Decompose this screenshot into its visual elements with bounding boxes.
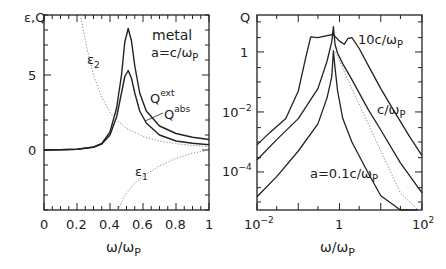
right-xtick-1e2: 102 [412,215,434,232]
curve-a=0.1c/ωP [257,51,418,210]
right-x-axis-label: ω/ωP [320,239,355,259]
left-x-axis-label: ω/ωP [106,239,141,259]
eps2-label: ε2 [87,52,100,70]
radius-label: a=c/ωP [151,45,198,63]
label-10c: 10c/ωP [358,32,403,50]
left-ytick-5: 5 [28,68,36,83]
curve-ε1 [118,150,209,210]
left-xtick-0.6: 0.6 [132,217,153,232]
label-0.1c: a=0.1c/ωP [310,166,378,184]
qabs-label: Qabs [164,104,190,122]
right-ytick-1e-4: 10−4 [222,162,252,179]
qext-label: Qext [150,88,175,106]
left-xtick-0.2: 0.2 [66,217,87,232]
right-curves [257,27,422,210]
left-xtick-0.8: 0.8 [165,217,186,232]
right-xtick-1e-2: 10−2 [244,215,274,232]
left-panel: ε,Q 5 0 0 0.2 0.4 0.6 0.8 1 ω/ωP metal a… [24,10,213,259]
figure: ε,Q 5 0 0 0.2 0.4 0.6 0.8 1 ω/ωP metal a… [0,0,446,269]
right-ytick-1: 1 [240,45,248,60]
metal-label: metal [152,27,192,43]
eps1-label: ε1 [135,164,148,182]
right-ytick-1e-2: 10−2 [222,103,252,120]
left-xtick-0.4: 0.4 [99,217,120,232]
right-y-axis-label: Q [240,10,250,25]
left-xtick-0: 0 [40,217,48,232]
right-xtick-1: 1 [335,217,343,232]
left-ytick-0: 0 [28,143,36,158]
right-panel: Q 1 10−2 10−4 10−2 1 102 ω/ωP 10c/ωP c/ω… [222,10,434,259]
curve-10c/ωP [257,35,422,156]
label-c: c/ωP [377,102,405,120]
left-xtick-1: 1 [205,217,213,232]
left-y-axis-label: ε,Q [24,10,45,25]
